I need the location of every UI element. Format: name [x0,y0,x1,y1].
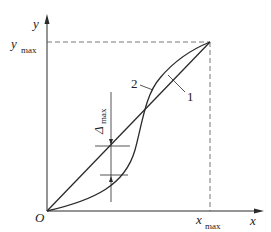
x-max-label: x [195,212,202,227]
curve-1-label: 1 [187,89,194,104]
x-max-subscript: max [205,221,221,231]
curve-1 [47,42,210,211]
characteristic-diagram: y x O y max x max 1 2 Δ max [0,0,271,232]
label-2-leader [140,85,153,90]
delta-max-label: Δ [91,126,106,135]
y-axis-label: y [31,16,39,31]
origin-label: O [35,210,45,225]
delta-arrow-up-icon [109,176,113,182]
curve-2-label: 2 [131,76,138,91]
y-max-label: y [9,36,17,51]
y-axis-arrow-icon [45,14,50,24]
x-axis-label: x [249,213,256,228]
delta-max-subscript: max [98,108,108,124]
y-max-subscript: max [21,45,37,55]
